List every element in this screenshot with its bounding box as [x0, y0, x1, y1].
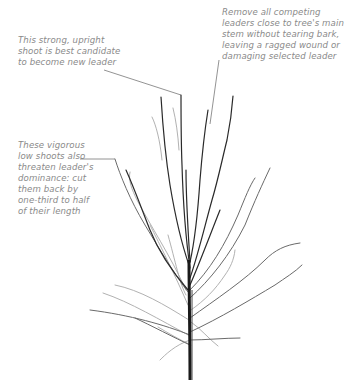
dark-branches — [126, 95, 233, 290]
leader-lines — [80, 60, 219, 159]
light-branches — [103, 108, 235, 360]
trunk — [189, 260, 190, 380]
leader-line-competing — [210, 60, 219, 124]
mid-branches — [90, 159, 302, 345]
leader-line-new-leader — [104, 70, 181, 95]
